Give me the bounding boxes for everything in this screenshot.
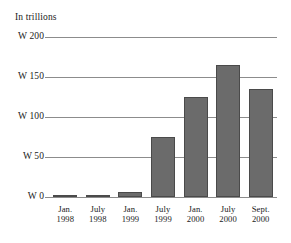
bar-chart: In trillions W 0W 50W 100W 150W 200 Jan.… xyxy=(0,0,291,243)
x-axis-tick-label-line: Jan. xyxy=(49,204,82,214)
x-axis-tick-label-line: 1998 xyxy=(49,214,82,224)
bar xyxy=(216,65,240,197)
x-axis-tick-label-line: 1998 xyxy=(82,214,115,224)
x-axis-tick-label: Sept.2000 xyxy=(244,204,277,224)
bar xyxy=(53,195,77,197)
x-axis-tick-label-line: Jan. xyxy=(179,204,212,214)
x-axis-tick-label: July2000 xyxy=(212,204,245,224)
chart-title: In trillions xyxy=(15,12,57,22)
bar xyxy=(151,137,175,197)
x-axis-tick-label-line: July xyxy=(212,204,245,214)
bar xyxy=(249,89,273,197)
x-axis-tick-label-line: Jan. xyxy=(114,204,147,214)
x-axis-tick-label-line: 1999 xyxy=(147,214,180,224)
x-axis-tick-label-line: 2000 xyxy=(179,214,212,224)
x-axis-tick-label: Jan.2000 xyxy=(179,204,212,224)
gridline xyxy=(49,197,277,198)
x-axis-tick-label-line: 2000 xyxy=(244,214,277,224)
bar xyxy=(184,97,208,197)
x-axis-tick-label-line: July xyxy=(147,204,180,214)
x-axis-tick-label-line: July xyxy=(82,204,115,214)
y-axis-tick-label: W 100 xyxy=(0,111,44,121)
x-axis-tick-label: Jan.1999 xyxy=(114,204,147,224)
gridline xyxy=(49,37,277,38)
y-axis-tick-label: W 0 xyxy=(0,191,44,201)
y-axis-tick-label: W 150 xyxy=(0,71,44,81)
y-axis-tick-label: W 50 xyxy=(0,151,44,161)
bar xyxy=(118,192,142,197)
bar xyxy=(86,195,110,197)
plot-area xyxy=(49,30,277,202)
gridline xyxy=(49,117,277,118)
x-axis-tick-label-line: Sept. xyxy=(244,204,277,214)
y-axis-tick-label: W 200 xyxy=(0,31,44,41)
x-axis-tick-label-line: 1999 xyxy=(114,214,147,224)
x-axis-tick-label: Jan.1998 xyxy=(49,204,82,224)
x-axis-tick-label: July1999 xyxy=(147,204,180,224)
x-axis-tick-label: July1998 xyxy=(82,204,115,224)
gridline xyxy=(49,77,277,78)
x-axis-tick-label-line: 2000 xyxy=(212,214,245,224)
